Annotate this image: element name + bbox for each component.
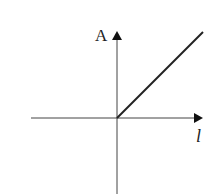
graph-canvas: [0, 0, 215, 194]
data-line: [117, 32, 203, 118]
y-axis-label: A: [95, 26, 107, 46]
x-axis-label: l: [196, 126, 201, 147]
x-axis-arrow-icon: [194, 113, 203, 123]
y-axis-arrow-icon: [112, 31, 122, 40]
